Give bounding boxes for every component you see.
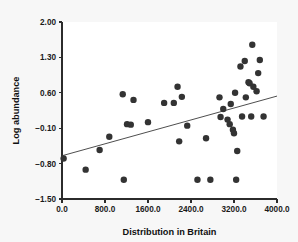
data-point: [216, 94, 222, 100]
data-point: [233, 177, 239, 183]
y-tick-labels: −1.50−0.80−0.100.601.302.00: [35, 18, 56, 204]
data-point: [171, 100, 177, 106]
x-axis-title: Distribution in Britain: [123, 227, 217, 237]
data-point: [161, 100, 167, 106]
y-axis-title: Log abundance: [11, 77, 21, 145]
data-point: [255, 70, 261, 76]
scatter-plot: 0.0800.01600.02400.03200.04000.0 −1.50−0…: [0, 0, 298, 242]
data-point: [228, 101, 234, 107]
data-point: [217, 114, 223, 120]
plot-area-background: [62, 22, 277, 199]
y-tick-label: −1.50: [35, 195, 56, 204]
data-point: [253, 88, 259, 94]
data-point: [234, 148, 240, 154]
y-tick-label: 0.60: [40, 89, 56, 98]
data-point: [203, 135, 209, 141]
data-point: [96, 147, 102, 153]
y-tick-label: 2.00: [40, 18, 56, 27]
data-point: [128, 121, 134, 127]
x-tick-labels: 0.0800.01600.02400.03200.04000.0: [56, 205, 290, 214]
data-point: [184, 122, 190, 128]
data-point: [174, 84, 180, 90]
data-point: [248, 113, 254, 119]
y-tick-label: 1.30: [40, 53, 56, 62]
data-point: [232, 90, 238, 96]
x-tick-label: 1600.0: [135, 205, 160, 214]
data-point: [257, 57, 263, 63]
y-tick-label: −0.80: [35, 160, 56, 169]
x-tick-label: 800.0: [95, 205, 116, 214]
data-point: [231, 130, 237, 136]
data-point: [106, 134, 112, 140]
data-point: [243, 94, 249, 100]
data-point: [82, 166, 88, 172]
data-point: [121, 177, 127, 183]
data-point: [237, 63, 243, 69]
x-tick-label: 3200.0: [221, 205, 246, 214]
data-point: [120, 91, 126, 97]
data-point: [239, 113, 245, 119]
data-point: [227, 121, 233, 127]
data-point: [249, 42, 255, 48]
chart-figure: 0.0800.01600.02400.03200.04000.0 −1.50−0…: [0, 0, 298, 242]
y-tick-label: −0.10: [35, 124, 56, 133]
x-tick-label: 0.0: [56, 205, 68, 214]
data-point: [194, 177, 200, 183]
data-point: [176, 138, 182, 144]
data-point: [145, 119, 151, 125]
data-point: [242, 58, 248, 64]
data-point: [179, 94, 185, 100]
data-point: [130, 97, 136, 103]
data-point: [207, 177, 213, 183]
data-point: [260, 113, 266, 119]
x-tick-label: 2400.0: [178, 205, 203, 214]
data-point: [60, 155, 66, 161]
x-tick-label: 4000.0: [264, 205, 289, 214]
data-point: [220, 106, 226, 112]
